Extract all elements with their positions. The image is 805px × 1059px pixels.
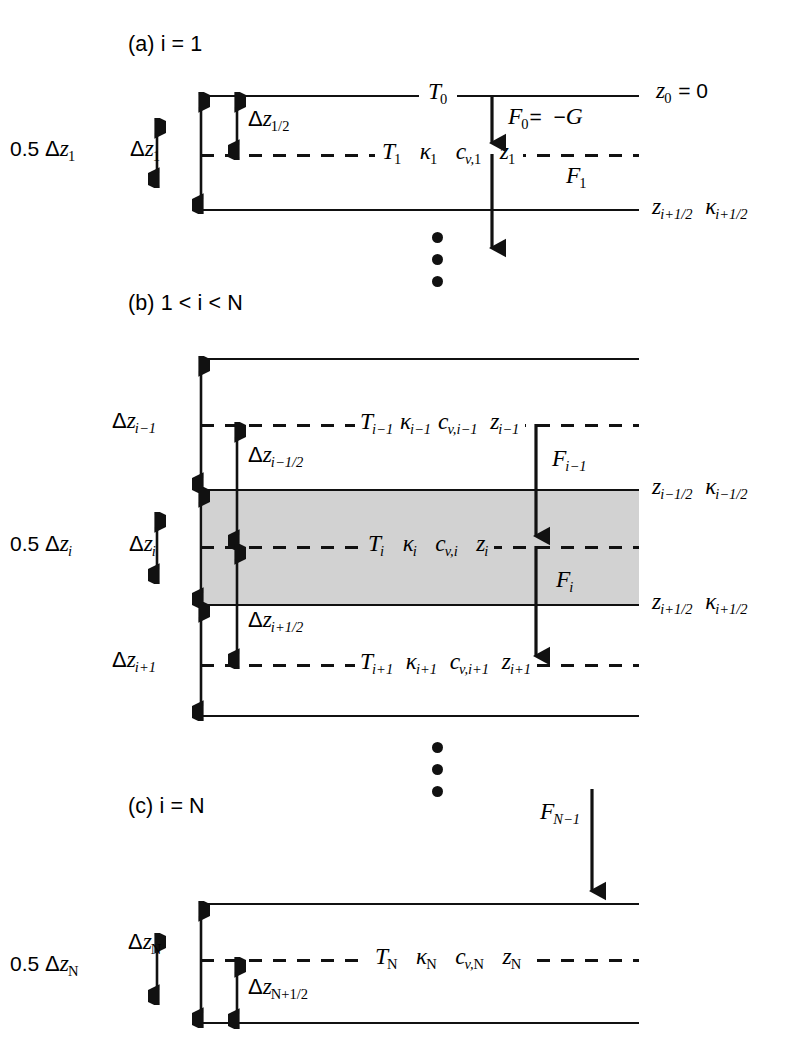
panel-a-flux-top-arrow [478,95,506,159]
panel-a-interface-line [201,209,639,211]
panel-c-half-spacing-label: ΔzN+1/2 ΔzN+1/2 [248,975,309,999]
panel-b-thickness-above-arrow [192,356,210,493]
panel-a-half-spacing-arrow [228,92,246,160]
panel-b-interface-bottom-label: zi+1/2 κi+1/2 zi+1/2 κi+1/2 [652,590,749,614]
panel-b-flux-above-arrow [522,424,550,552]
ellipsis-dot [432,232,443,243]
panel-b-thickness-below-label: Δzi+1 Δzi+1 [112,648,157,672]
panel-b-thickness-below-arrow [192,602,210,721]
panel-b-flux-above-label: Fi−1 Fi−1 [552,447,587,471]
ellipsis-dot [432,254,443,265]
panel-a-half-layer-label: 0.5 Δz1 0.5 Δz1 [10,137,76,161]
panel-b-half-layer-label: 0.5 Δzi 0.5 Δzi [10,532,73,556]
panel-b-bottom-line [201,715,639,717]
figure-canvas: (a) i = 1 T0 T0 z0 = 0 z0 = 0 T1 κ1 cv,1… [0,0,805,1059]
panel-b-interface-top-label: zi−1/2 κi−1/2 zi−1/2 κi−1/2 [652,475,749,499]
panel-a-surface-depth: z0 = 0 z0 = 0 [656,79,708,103]
ellipsis-dot [432,786,443,797]
panel-a-title: (a) i = 1 [128,32,202,57]
panel-b-flux-center-label: Fi Fi [556,568,574,592]
panel-c-bottom-line [201,1022,639,1024]
panel-a-flux-bottom-label: F1 F1 [566,164,588,188]
panel-a-layer-thickness-arrow [192,92,210,214]
panel-a-flux-top-label: F0 = −G F0= −G [508,105,583,129]
panel-b-row-above: Ti−1 κi−1 cv,i−1 zi−1 Ti−1 κi−1 cv,i−1 z… [355,410,525,434]
panel-b-thickness-above-label: Δzi−1 Δzi−1 [112,409,157,433]
panel-c-title: (c) i = N [128,794,205,819]
panel-b-half-below-arrow [228,544,246,669]
panel-c-title-text: (c) i = N [128,794,205,818]
ellipsis-dot [432,742,443,753]
panel-c-half-layer-label: 0.5 ΔzN 0.5 ΔzN [10,952,79,976]
panel-c-half-spacing-arrow [228,957,246,1029]
panel-b-thickness-center-arrow [192,487,210,608]
panel-c-thickness-label: ΔzN ΔzN [128,930,162,954]
panel-a-title-text: (a) i = 1 [128,32,202,56]
panel-a-flux-bottom-arrow [478,154,506,264]
panel-b-title: (b) 1 < i < N [128,291,243,316]
panel-c-flux-in-arrow [578,789,606,907]
panel-b-interface-top-line [201,489,639,491]
panel-b-row-center: Ti κi cv,i zi Ti κi cv,i zi [363,532,494,556]
panel-b-thickness-center-label: Δzi Δzi [129,532,157,556]
panel-a-surface-temperature: T0 T0 [419,80,457,104]
panel-b-row-below: Ti+1 κi+1 cv,i+1 zi+1 Ti+1 κi+1 cv,i+1 z… [355,650,537,674]
ellipsis-dot [432,764,443,775]
panel-b-half-above-label: Δzi−1/2 Δzi−1/2 [248,443,304,467]
panel-b-flux-center-arrow [522,546,550,672]
panel-c-thickness-arrow [192,901,210,1028]
panel-c-flux-in-label: FN−1 FN−1 [540,800,581,824]
panel-c-node-row: TN κN cv,N zN TN κN cv,N zN [369,945,528,969]
panel-b-title-text: (b) 1 < i < N [128,291,243,315]
panel-b-half-below-label: Δzi+1/2 Δzi+1/2 [248,608,304,632]
panel-c-top-line [201,903,639,905]
panel-a-interface-label: zi+1/2 κi+1/2 zi+1/2 κi+1/2 [652,195,749,219]
panel-b-top-line [201,358,639,360]
panel-a-half-spacing-label: Δz1/2 Δz1/2 [248,107,290,131]
panel-a-layer-thickness-label: Δz1 Δz1 [130,137,161,161]
panel-b-half-above-arrow [228,422,246,550]
ellipsis-dot [432,276,443,287]
